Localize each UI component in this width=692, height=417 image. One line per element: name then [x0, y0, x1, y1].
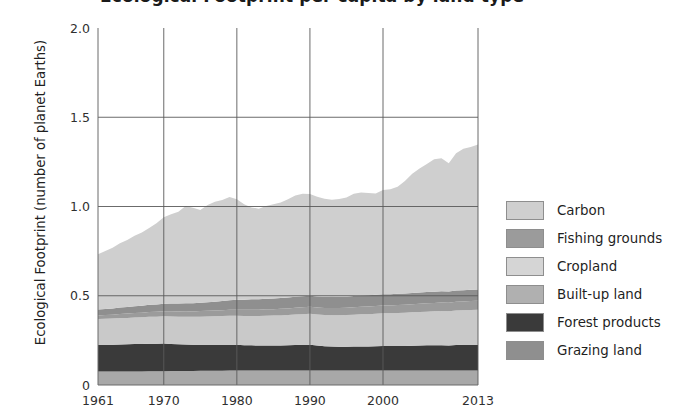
y-tick-labels-group: 00.51.01.52.0 [70, 21, 90, 393]
y-tick-label: 2.0 [70, 21, 90, 36]
legend-label: Built-up land [557, 287, 642, 302]
y-axis-title: Ecological Footprint (number of planet E… [33, 3, 48, 383]
y-tick-label: 1.0 [70, 199, 90, 214]
x-tick-label: 1961 [82, 393, 114, 408]
area-series-group [98, 145, 478, 385]
legend-label: Fishing grounds [557, 231, 662, 246]
legend-swatch-grazing-land [506, 341, 544, 360]
legend-label: Cropland [557, 259, 617, 274]
legend-item[interactable]: Carbon [506, 196, 688, 224]
legend-item[interactable]: Cropland [506, 252, 688, 280]
area-series-forest-products [98, 344, 478, 372]
x-tick-label: 2013 [462, 393, 494, 408]
chart-legend: CarbonFishing groundsCroplandBuilt-up la… [506, 196, 688, 364]
legend-item[interactable]: Built-up land [506, 280, 688, 308]
legend-item[interactable]: Forest products [506, 308, 688, 336]
legend-label: Grazing land [557, 343, 642, 358]
legend-swatch-cropland [506, 257, 544, 276]
legend-item[interactable]: Fishing grounds [506, 224, 688, 252]
y-tick-label: 0 [82, 378, 90, 393]
legend-item[interactable]: Grazing land [506, 336, 688, 364]
y-tick-label: 0.5 [70, 288, 90, 303]
y-tick-label: 1.5 [70, 110, 90, 125]
x-tick-label: 1970 [148, 393, 180, 408]
area-series-cropland [98, 371, 478, 385]
legend-swatch-fishing-grounds [506, 229, 544, 248]
x-tick-label: 1990 [294, 393, 326, 408]
x-tick-label: 2000 [367, 393, 399, 408]
legend-swatch-forest-products [506, 313, 544, 332]
area-series-carbon [98, 145, 478, 310]
x-tick-label: 1980 [221, 393, 253, 408]
legend-swatch-built-up-land [506, 285, 544, 304]
x-tick-labels-group: 196119701980199020002013 [82, 393, 494, 408]
legend-swatch-carbon [506, 201, 544, 220]
legend-label: Forest products [557, 315, 661, 330]
chart-figure: Ecological Footprint per capita by land … [0, 0, 692, 417]
legend-label: Carbon [557, 203, 605, 218]
